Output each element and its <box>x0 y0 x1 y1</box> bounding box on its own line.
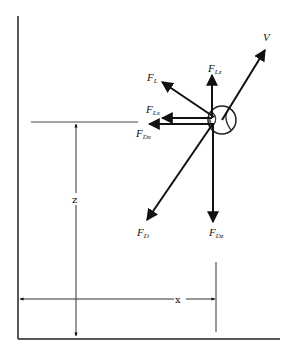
lift-force-vector <box>162 82 214 117</box>
label-v: V <box>263 31 271 43</box>
label-fdz: FDz <box>208 226 224 240</box>
label-fdx: FDx <box>135 127 152 141</box>
z-dimension-label: z <box>72 194 77 205</box>
drag-force-vector <box>147 125 212 220</box>
label-fd: FD <box>136 226 149 240</box>
velocity-vector <box>222 50 265 120</box>
label-flz: FLz <box>207 62 222 76</box>
label-flx: FLx <box>145 103 161 117</box>
label-fl: FL <box>146 71 158 85</box>
force-diagram: z x V FL FLz FLx FDx FD FDz <box>0 0 293 358</box>
x-dimension-label: x <box>175 294 181 305</box>
